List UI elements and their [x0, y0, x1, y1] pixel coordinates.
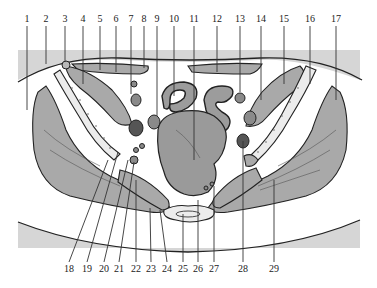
label-22: 22 [131, 263, 141, 274]
label-8: 8 [142, 13, 147, 24]
bowel-loop-left [162, 82, 197, 112]
label-5: 5 [98, 13, 103, 24]
label-21: 21 [114, 263, 124, 274]
label-18: 18 [64, 263, 74, 274]
label-3: 3 [63, 13, 68, 24]
label-17: 17 [331, 13, 341, 24]
posterior-skin-band [18, 220, 360, 252]
vessel-left-1 [131, 94, 141, 106]
label-9: 9 [155, 13, 160, 24]
label-6: 6 [114, 13, 119, 24]
vessel-right-2 [244, 111, 256, 125]
sacrum [164, 206, 215, 223]
label-7: 7 [129, 13, 134, 24]
label-19: 19 [82, 263, 92, 274]
vessel-left-3 [131, 81, 137, 87]
iliacus-left [66, 66, 132, 125]
label-12: 12 [212, 13, 222, 24]
anterior-superior-iliac-spine-left [62, 61, 70, 69]
pelvis-cross-section-diagram: 1 2 3 4 5 6 7 8 9 10 11 12 13 14 15 16 1… [0, 0, 377, 288]
label-23: 23 [146, 263, 156, 274]
label-2: 2 [44, 13, 49, 24]
external-iliac-vein-left [129, 120, 143, 136]
vessel-right-1 [235, 93, 245, 103]
label-26: 26 [193, 263, 203, 274]
label-10: 10 [169, 13, 179, 24]
label-15: 15 [279, 13, 289, 24]
label-25: 25 [178, 263, 188, 274]
rectal-vessel-1 [204, 186, 208, 190]
small-vessel-left-b [134, 148, 139, 153]
label-20: 20 [99, 263, 109, 274]
label-29: 29 [269, 263, 279, 274]
label-4: 4 [81, 13, 86, 24]
label-27: 27 [209, 263, 219, 274]
small-vessel-left-a [140, 144, 145, 149]
label-14: 14 [256, 13, 266, 24]
label-28: 28 [238, 263, 248, 274]
central-pelvic-organ [158, 111, 227, 196]
label-13: 13 [235, 13, 245, 24]
rectus-abdominis-right [188, 63, 262, 74]
label-1: 1 [25, 13, 30, 24]
label-16: 16 [305, 13, 315, 24]
label-11: 11 [189, 13, 199, 24]
rectal-vessel-2 [210, 182, 214, 186]
label-24: 24 [162, 263, 172, 274]
